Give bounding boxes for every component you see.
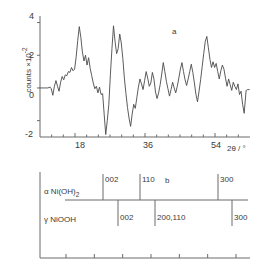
hkl-label-alpha-300: 300 — [220, 176, 233, 184]
panel-b-sticks-svg — [0, 0, 264, 271]
phase-label-alpha-ni-oh-2: α Ni(OH)2 — [44, 188, 79, 198]
phase-symbol-gamma: γ — [44, 215, 48, 224]
phase-label-gamma-niooh: γ NiOOH — [44, 216, 76, 224]
xrd-figure: counts ×10-2 4 2 0 -2 18 36 54 2θ / ° a … — [0, 0, 264, 271]
hkl-label-gamma-200-110: 200,110 — [157, 214, 185, 222]
hkl-label-alpha-002: 002 — [105, 176, 118, 184]
phase-subscript-2: 2 — [76, 191, 80, 198]
phase-name-ni-oh: Ni(OH) — [51, 187, 76, 196]
hkl-label-gamma-300: 300 — [234, 214, 247, 222]
phase-name-niooh: NiOOH — [50, 215, 76, 224]
hkl-label-alpha-110: 110 — [142, 176, 155, 184]
phase-symbol-alpha: α — [44, 187, 49, 196]
panel-b-label: b — [165, 177, 169, 185]
hkl-label-gamma-002: 002 — [120, 214, 133, 222]
